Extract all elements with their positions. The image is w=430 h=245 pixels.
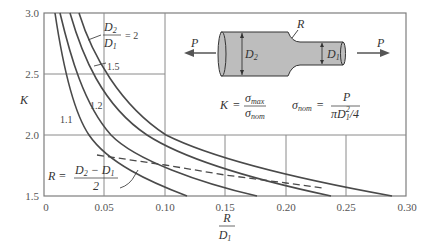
label-P-right: P bbox=[376, 36, 385, 50]
ratio-label-num: D2 bbox=[103, 20, 117, 35]
r-eq-R: R = bbox=[47, 169, 66, 183]
shaft-diagram: P P D2 D1 R bbox=[184, 17, 390, 76]
ratio-label-den: D1 bbox=[103, 36, 117, 51]
formula-sigma-num: P bbox=[342, 90, 351, 104]
x-tick-0.20: 0.20 bbox=[276, 201, 296, 213]
y-tick-1.5: 1.5 bbox=[25, 190, 39, 202]
r-eq-den: 2 bbox=[93, 179, 99, 193]
formula-K-num: σmax bbox=[245, 91, 265, 106]
x-axis-title-den: D1 bbox=[218, 228, 232, 243]
x-tick-0.10: 0.10 bbox=[155, 201, 175, 213]
chart-svg: 3.0 2.5 2.0 1.5 0 0.05 0.10 0.15 0.20 0.… bbox=[0, 0, 430, 245]
shaft-body bbox=[221, 32, 343, 76]
y-tick-3.0: 3.0 bbox=[25, 7, 39, 19]
formulas: K= σmax σnom σnom= P πD12/4 bbox=[219, 90, 360, 122]
leader-ratio-2 bbox=[88, 35, 101, 40]
curve-label-1.2: 1.2 bbox=[90, 100, 103, 111]
x-tick-0: 0 bbox=[43, 201, 49, 213]
formula-K-den: σnom bbox=[245, 106, 265, 121]
shaft-left-end bbox=[218, 32, 226, 76]
ratio-label-eq: = 2 bbox=[125, 30, 138, 41]
curve-label-1.1: 1.1 bbox=[60, 114, 73, 125]
x-tick-0.05: 0.05 bbox=[94, 201, 114, 213]
y-tick-2.0: 2.0 bbox=[25, 129, 39, 141]
shaft-right-end bbox=[341, 42, 346, 65]
x-tick-0.30: 0.30 bbox=[397, 201, 417, 213]
label-P-left: P bbox=[190, 36, 199, 50]
formula-sigma-den: πD12/4 bbox=[331, 105, 359, 122]
formula-sigma-nom: σnom= bbox=[292, 98, 324, 113]
label-R: R bbox=[296, 17, 305, 31]
x-axis-title-num: R bbox=[222, 211, 231, 225]
formula-K: K= bbox=[219, 98, 240, 112]
r-eq-num: D2−D1 bbox=[74, 163, 114, 178]
x-tick-0.25: 0.25 bbox=[336, 201, 356, 213]
curve-label-1.5: 1.5 bbox=[107, 61, 120, 72]
y-tick-2.5: 2.5 bbox=[25, 68, 39, 80]
y-axis-title: K bbox=[19, 93, 29, 107]
